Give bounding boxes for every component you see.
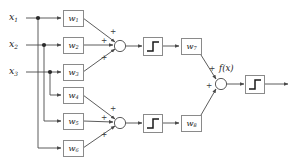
weight-box-w5: w5 [63,113,84,130]
activation-box-step-output [245,75,265,94]
sign-plus-output-2: + [206,82,212,90]
weight-label-w8: w8 [186,119,196,129]
sign-plus-output-1: + [209,65,215,73]
weight-box-w7: w7 [181,38,202,55]
sum-node-output [215,78,226,89]
network-diagram: x1 x2 x3 w1 w2 w3 w4 w5 w6 [0,0,294,168]
weight-box-w4: w4 [63,87,84,104]
wire-x1-branch [38,18,61,148]
weight-label-w2: w2 [68,41,78,51]
wire-w8-to-sum-output [201,89,216,115]
output-function-label: f(x) [219,64,234,73]
sign-plus-bottom-3: + [101,131,107,139]
weight-label-w5: w5 [68,117,78,127]
sign-plus-top-3: + [101,54,107,62]
step-function-icon [146,40,160,53]
weight-label-w7: w7 [186,42,196,52]
step-function-icon [248,78,262,91]
input-label-x3: x3 [9,66,18,78]
wire-w3-to-sum-top [83,49,115,72]
input-label-x2: x2 [9,39,18,51]
junction-dot-x2 [42,43,46,47]
weight-label-w3: w3 [68,68,78,78]
sign-plus-bottom-1: + [110,105,116,113]
sign-plus-top-2: + [101,37,107,45]
step-function-icon [146,117,160,130]
weight-label-w1: w1 [68,14,78,24]
junction-dot-x1 [36,16,40,20]
junction-dot-x3 [48,70,52,74]
weight-box-w1: w1 [63,10,84,27]
sum-node-top [114,40,125,51]
wire-x3-branch [50,72,61,95]
weight-label-w4: w4 [68,91,78,101]
sum-node-bottom [114,117,125,128]
activation-box-step-top [143,37,163,56]
weight-box-w8: w8 [181,115,202,132]
sign-plus-bottom-2: + [101,114,107,122]
weight-label-w6: w6 [68,144,78,154]
weight-box-w2: w2 [63,37,84,54]
weight-box-w6: w6 [63,140,84,157]
weight-box-w3: w3 [63,64,84,81]
wire-w5-to-sum-bottom [83,121,113,122]
activation-box-step-bottom [143,114,163,133]
wire-w6-to-sum-bottom [83,126,115,148]
sign-plus-top-1: + [110,28,116,36]
input-label-x1: x1 [9,12,18,24]
wire-x2-branch [44,45,61,121]
